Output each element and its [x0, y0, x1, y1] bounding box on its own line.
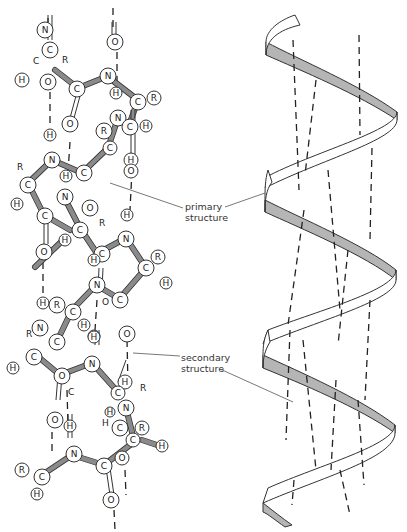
atom-n: N — [84, 356, 100, 372]
atom-c: C — [37, 208, 53, 224]
atom-h: H — [78, 319, 90, 331]
ribbon-front-segment — [265, 112, 397, 188]
atom-c: C — [72, 222, 88, 238]
svg-text:C: C — [143, 263, 149, 273]
svg-text:H: H — [113, 88, 120, 98]
atom-c: C — [42, 42, 58, 58]
atom-c: C — [96, 458, 112, 474]
svg-text:O: O — [66, 119, 73, 129]
svg-text:H: H — [34, 489, 41, 499]
atom-h: H — [60, 170, 72, 182]
atom-n: N — [66, 446, 82, 462]
atom-h: H — [156, 440, 168, 452]
atom-n: N — [118, 231, 134, 247]
svg-text:N: N — [71, 449, 78, 459]
secondary-leader-line — [133, 353, 180, 356]
svg-text:O: O — [123, 329, 130, 339]
atom-o: O — [36, 244, 52, 260]
atom-c: C — [69, 81, 85, 97]
ribbon-back-segment — [263, 503, 292, 527]
atom-c: C — [112, 420, 128, 436]
svg-text:O: O — [111, 37, 118, 47]
secondary-label-line-1: secondary — [181, 352, 230, 363]
svg-text:R: R — [139, 423, 145, 433]
svg-text:H: H — [107, 407, 114, 417]
svg-text:H: H — [62, 235, 69, 245]
ribbon-front-segment — [263, 425, 395, 503]
svg-text:C: C — [54, 337, 60, 347]
svg-text:N: N — [89, 359, 96, 369]
svg-text:C: C — [39, 472, 45, 482]
atom-o: O — [62, 116, 78, 132]
atom-h: H — [121, 209, 133, 221]
primary-leader-line — [110, 183, 183, 208]
ribbon-back-segment — [263, 355, 395, 433]
atom-n: N — [89, 277, 105, 293]
atom-h: H — [64, 420, 76, 432]
atom-c: C — [103, 141, 117, 155]
atom-o: O — [47, 412, 63, 428]
atom-r-label: R — [140, 383, 146, 393]
svg-text:H: H — [14, 199, 21, 209]
svg-text:C: C — [115, 388, 121, 398]
svg-text:R: R — [155, 252, 161, 262]
ribbon-back-segment — [265, 200, 396, 280]
secondary-structure-label: secondary structure — [181, 352, 230, 374]
svg-text:N: N — [37, 323, 44, 333]
atom-h-label: H — [102, 418, 109, 428]
atom-r-label: R — [62, 55, 68, 65]
svg-text:O: O — [44, 77, 51, 87]
atom-h: H — [31, 488, 43, 500]
ribbon-front-segment — [263, 270, 396, 344]
ribbon-back-segment — [266, 42, 397, 120]
atom-o: O — [107, 34, 123, 50]
atom-n: N — [100, 68, 116, 84]
ribbon-hydrogen-bonds — [286, 35, 372, 515]
svg-text:H: H — [163, 278, 170, 288]
svg-text:C: C — [135, 97, 141, 107]
atom-c: C — [49, 334, 65, 350]
svg-text:H: H — [91, 255, 98, 265]
svg-text:C: C — [47, 45, 53, 55]
svg-text:C: C — [81, 168, 87, 178]
atoms: N C C R H O O C N H C R N C H O R C H O … — [7, 22, 172, 508]
ribbon-model — [263, 15, 397, 527]
atom-h: H — [140, 120, 152, 132]
atom-r: R — [96, 123, 112, 139]
svg-text:H: H — [91, 332, 98, 342]
atom-o: O — [82, 200, 98, 216]
svg-text:H: H — [122, 377, 129, 387]
svg-text:N: N — [49, 155, 56, 165]
atom-c: C — [65, 304, 81, 320]
svg-text:C: C — [77, 225, 83, 235]
svg-text:H: H — [47, 130, 54, 140]
atom-c: C — [26, 349, 42, 365]
primary-leader-line-2 — [225, 193, 265, 207]
svg-text:O: O — [86, 203, 93, 213]
alpha-helix-diagram: N C C R H O O C N H C R N C H O R C H O … — [0, 0, 407, 532]
svg-text:C: C — [101, 461, 107, 471]
atom-c: C — [76, 165, 92, 181]
atom-h: H — [37, 297, 49, 309]
svg-text:R: R — [19, 465, 25, 475]
atom-r: R — [15, 463, 29, 477]
svg-text:H: H — [124, 210, 131, 220]
atom-c-label: C — [68, 387, 74, 397]
svg-text:N: N — [62, 192, 69, 202]
svg-text:C: C — [70, 307, 76, 317]
atom-r-label: R — [17, 162, 23, 172]
atom-o: O — [54, 368, 70, 384]
atom-o: O — [103, 492, 119, 508]
svg-text:O: O — [58, 371, 65, 381]
svg-text:N: N — [123, 403, 130, 413]
atom-h: H — [7, 362, 19, 374]
svg-text:C: C — [127, 122, 133, 132]
svg-text:H: H — [19, 75, 26, 85]
atom-h: H — [105, 407, 115, 417]
svg-text:R: R — [54, 300, 60, 310]
atom-c: C — [20, 177, 36, 193]
atom-h: H — [160, 277, 172, 289]
atom-r: R — [49, 297, 65, 313]
atom-n: N — [37, 22, 53, 38]
atom-n: N — [57, 189, 73, 205]
